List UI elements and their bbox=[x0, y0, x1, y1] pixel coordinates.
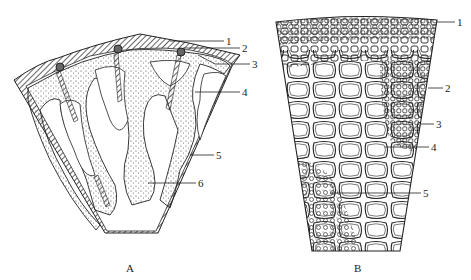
panel-a-vascular-bundle bbox=[56, 63, 64, 71]
panel-a-label: A bbox=[126, 263, 134, 274]
panel-a-vascular-bundle bbox=[114, 45, 122, 53]
panel-b-drawing bbox=[270, 10, 455, 255]
panel-a-callout-2: 2 bbox=[242, 43, 248, 54]
panel-a-callout-3: 3 bbox=[252, 59, 258, 70]
panel-b-callout-4: 4 bbox=[431, 142, 437, 153]
panel-a-drawing bbox=[14, 34, 250, 233]
panel-a-vascular-bundle bbox=[177, 48, 185, 56]
panel-b-callout-5: 5 bbox=[423, 188, 429, 199]
figure-canvas bbox=[0, 0, 471, 280]
panel-b-callout-1: 1 bbox=[457, 17, 463, 28]
panel-b-label: B bbox=[354, 263, 361, 274]
panel-a-callout-1: 1 bbox=[226, 36, 232, 47]
panel-a-callout-4: 4 bbox=[242, 87, 248, 98]
panel-b-callout-3: 3 bbox=[436, 119, 442, 130]
panel-a-callout-5: 5 bbox=[216, 150, 222, 161]
panel-a-callout-6: 6 bbox=[198, 178, 204, 189]
panel-b-callout-2: 2 bbox=[445, 83, 451, 94]
